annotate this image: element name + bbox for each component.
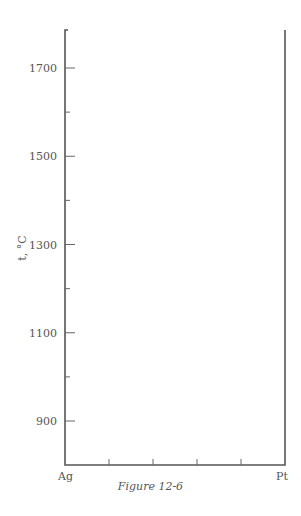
y-tick-labels: 9001100130015001700: [29, 62, 57, 428]
y-ticks: [65, 68, 75, 421]
figure-caption: Figure 12-6: [0, 480, 301, 493]
y-tick-label: 1500: [29, 150, 57, 163]
x-ticks: [109, 459, 241, 465]
y-tick-label: 1100: [29, 327, 57, 340]
left-axis: [65, 30, 285, 465]
axes: [65, 30, 285, 465]
y-tick-label: 1300: [29, 239, 57, 252]
y-axis-label: t, °C: [16, 235, 29, 260]
phase-diagram-chart: 9001100130015001700 t, °C Ag Pt: [0, 0, 301, 516]
y-tick-label: 1700: [29, 62, 57, 75]
y-tick-label: 900: [36, 415, 57, 428]
